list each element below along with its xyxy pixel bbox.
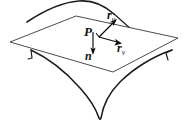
rv-subscript: v — [122, 48, 125, 57]
tangent-vector-ru-label: ru — [107, 9, 115, 24]
tangent-plane-quad — [10, 16, 178, 72]
normal-vector-label-n: n — [85, 50, 92, 62]
saddle-left-corner-tab — [28, 50, 32, 59]
point-label-p: P — [84, 25, 92, 38]
surface-diagram-svg — [0, 0, 191, 123]
tangent-vector-rv-label: rv — [117, 42, 125, 57]
ru-subscript: u — [112, 15, 116, 24]
saddle-bottom-cusp — [99, 118, 101, 120]
tangent-plane-figure: P ru rv n — [0, 0, 191, 123]
